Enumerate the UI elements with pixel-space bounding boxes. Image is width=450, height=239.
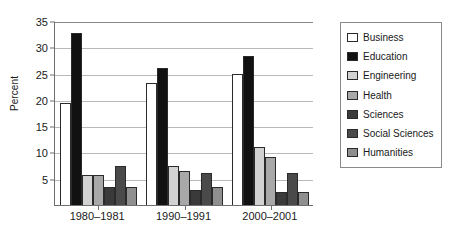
legend-swatch-icon (347, 91, 358, 100)
bar-groups (55, 22, 313, 205)
legend-item[interactable]: Business (347, 28, 436, 47)
legend-label: Education (363, 51, 407, 62)
bar (168, 166, 179, 205)
legend-label: Health (363, 90, 392, 101)
legend-swatch-icon (347, 33, 358, 42)
plot-area: 5101520253035 (54, 22, 313, 206)
bar (82, 175, 93, 205)
legend-swatch-icon (347, 52, 358, 61)
legend-label: Humanities (363, 147, 413, 158)
legend-swatch-icon (347, 129, 358, 138)
bar (298, 192, 309, 205)
bar (254, 147, 265, 205)
chart-container: Percent 5101520253035 1980–19811990–1991… (0, 0, 450, 239)
bar (265, 157, 276, 205)
bar (93, 175, 104, 205)
legend-label: Business (363, 32, 404, 43)
bar (276, 192, 287, 205)
x-axis-tick-label: 1990–1991 (156, 210, 211, 222)
legend-item[interactable]: Sciences (347, 105, 436, 124)
legend-item[interactable]: Humanities (347, 143, 436, 162)
bar (243, 56, 254, 205)
legend-item[interactable]: Engineering (347, 66, 436, 85)
legend-label: Engineering (363, 70, 416, 81)
x-axis-tick-label: 1980–1981 (70, 210, 125, 222)
bar (146, 83, 157, 205)
legend-item[interactable]: Education (347, 47, 436, 66)
chart-legend: BusinessEducationEngineeringHealthScienc… (340, 22, 442, 168)
bar (287, 173, 298, 205)
bar (190, 190, 201, 205)
bar (201, 173, 212, 205)
y-axis-label: Percent (9, 54, 20, 134)
bar (232, 74, 243, 205)
bar (212, 187, 223, 205)
bar (104, 187, 115, 205)
bar-group (146, 22, 223, 205)
bar (115, 166, 126, 205)
legend-swatch-icon (347, 148, 358, 157)
bar-group (60, 22, 137, 205)
legend-item[interactable]: Health (347, 86, 436, 105)
bar (60, 103, 71, 205)
legend-swatch-icon (347, 71, 358, 80)
legend-label: Sciences (363, 109, 404, 120)
bar (157, 68, 168, 205)
bar (126, 187, 137, 205)
bar-group (232, 22, 309, 205)
x-axis-tick-label: 2000–2001 (242, 210, 297, 222)
x-axis-labels: 1980–19811990–19912000–2001 (54, 210, 313, 222)
bar (71, 33, 82, 205)
bar (179, 171, 190, 205)
legend-label: Social Sciences (363, 128, 434, 139)
legend-item[interactable]: Social Sciences (347, 124, 436, 143)
legend-swatch-icon (347, 110, 358, 119)
